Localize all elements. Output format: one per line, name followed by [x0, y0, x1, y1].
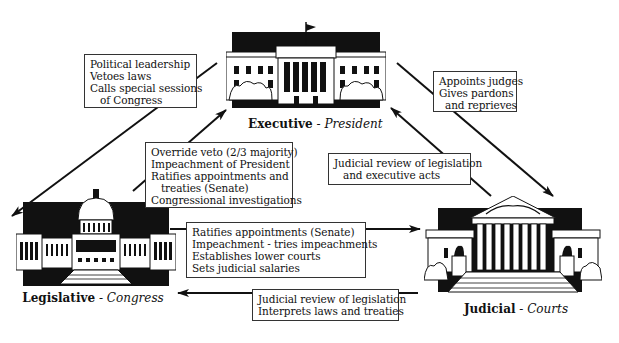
legislative-to-judicial-powers-box: Ratifies appointments (Senate) Impeachme… [186, 222, 366, 278]
legislative-branch-label: Legislative - Congress [18, 291, 168, 305]
supreme-court-icon [424, 196, 602, 296]
checks-and-balances-diagram: Executive - President Legislative - Cong… [0, 0, 619, 343]
judicial-branch-name: Judicial [464, 302, 516, 316]
judicial-branch-role: Courts [527, 302, 568, 316]
legislative-to-executive-powers-box: Override veto (2/3 majority) Impeachment… [145, 142, 293, 208]
judicial-to-legislative-powers-box: Judicial review of legislation Interpret… [252, 289, 399, 321]
legislative-branch-name: Legislative [22, 291, 95, 305]
legislative-branch-role: Congress [107, 291, 164, 305]
white-house-icon [226, 22, 386, 110]
executive-branch-name: Executive [248, 117, 313, 131]
judicial-branch-label: Judicial - Courts [456, 302, 576, 316]
executive-branch-role: President [324, 117, 382, 131]
executive-to-judicial-powers-box: Appoints judges Gives pardons and reprie… [433, 71, 517, 112]
executive-branch-label: Executive - President [248, 117, 368, 131]
judicial-to-executive-powers-box: Judicial review of legislation and execu… [328, 153, 471, 185]
executive-to-legislative-powers-box: Political leadership Vetoes laws Calls s… [84, 54, 197, 108]
